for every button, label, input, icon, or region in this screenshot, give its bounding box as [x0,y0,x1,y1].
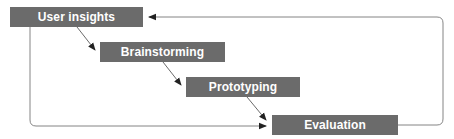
arrow-brainstorming-to-prototyping [163,62,181,85]
node-user-insights: User insights [10,7,143,27]
node-prototyping: Prototyping [186,77,300,97]
node-evaluation: Evaluation [272,115,398,135]
arrow-insights-to-brainstorming [77,27,95,50]
arrow-evaluation-to-insights-loop [149,17,443,125]
node-brainstorming: Brainstorming [100,42,225,62]
process-diagram: User insights Brainstorming Prototyping … [0,0,454,139]
arrow-prototyping-to-evaluation [247,97,266,120]
